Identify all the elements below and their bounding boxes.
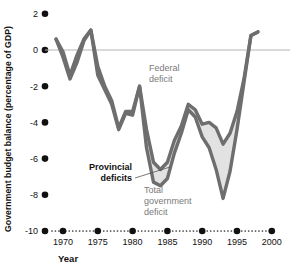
- y-tick-label: -4: [30, 118, 38, 128]
- x-axis-minor-dot: [55, 230, 57, 232]
- x-axis-minor-dot: [231, 230, 233, 232]
- x-axis-minor-dot: [148, 230, 150, 232]
- x-axis-minor-dot: [89, 230, 91, 232]
- x-axis-minor-dot: [186, 230, 188, 232]
- x-axis-minor-dot: [75, 230, 77, 232]
- provincial-deficits-label-line2: deficits: [100, 173, 132, 183]
- y-tick-dot: [42, 155, 49, 162]
- x-axis-minor-dot: [141, 230, 143, 232]
- x-axis-minor-dot: [220, 230, 222, 232]
- y-tick-label: -2: [30, 82, 38, 92]
- x-axis-minor-dot: [155, 230, 157, 232]
- x-axis-minor-dot: [224, 230, 226, 232]
- x-tick-dot: [129, 228, 136, 235]
- x-axis-minor-dot: [241, 230, 243, 232]
- y-axis-ticks: 20-2-4-6-8-10: [25, 9, 48, 236]
- x-axis-minor-dot: [106, 230, 108, 232]
- x-tick-dot: [60, 228, 67, 235]
- x-axis-title: Year: [58, 253, 78, 264]
- x-axis-minor-dot: [86, 230, 88, 232]
- provincial-deficits-label-line1: Provincial: [89, 162, 132, 172]
- x-axis-minor-dot: [196, 230, 198, 232]
- x-tick-label: 2000: [262, 237, 282, 247]
- x-axis-minor-dot: [265, 230, 267, 232]
- provincial-deficits-band: [56, 30, 258, 198]
- annotation-total-government-deficit: Total government deficit: [144, 185, 192, 217]
- x-axis-minor-dot: [79, 230, 81, 232]
- y-tick-dot: [42, 192, 49, 199]
- y-tick-dot: [42, 83, 49, 90]
- x-axis-minor-dot: [258, 230, 260, 232]
- federal-deficit-label-line1: Federal: [149, 63, 180, 73]
- y-tick-label: -10: [25, 226, 38, 236]
- x-tick-label: 1985: [157, 237, 177, 247]
- x-axis-minor-dot: [175, 230, 177, 232]
- x-axis-minor-dot: [262, 230, 264, 232]
- x-tick-label: 1970: [53, 237, 73, 247]
- x-axis-minor-dot: [144, 230, 146, 232]
- y-tick-dot: [42, 119, 49, 126]
- y-tick-dot: [42, 228, 49, 235]
- total-government-deficit-label-line2: government: [144, 196, 192, 206]
- x-axis-minor-dot: [210, 230, 212, 232]
- x-axis-minor-dot: [182, 230, 184, 232]
- x-axis-minor-dot: [72, 230, 74, 232]
- x-axis-minor-dot: [251, 230, 253, 232]
- y-axis-title: Government budget balance (percentage of…: [3, 26, 13, 232]
- x-axis-minor-dot: [113, 230, 115, 232]
- total-government-deficit-label-line1: Total: [144, 185, 163, 195]
- x-axis-minor-dot: [193, 230, 195, 232]
- x-tick-label: 1995: [227, 237, 247, 247]
- x-tick-label: 1980: [123, 237, 143, 247]
- x-tick-label: 1975: [88, 237, 108, 247]
- x-tick-dot: [95, 228, 102, 235]
- x-axis-minor-dot: [213, 230, 215, 232]
- x-axis-ticks: 1970197519801985199019952000: [53, 237, 282, 247]
- x-tick-label: 1990: [192, 237, 212, 247]
- x-tick-dot: [199, 228, 206, 235]
- y-tick-label: 0: [33, 45, 38, 55]
- x-axis-minor-dot: [93, 230, 95, 232]
- x-axis-minor-dot: [120, 230, 122, 232]
- x-axis-minor-dot: [103, 230, 105, 232]
- x-axis-minor-dot: [117, 230, 119, 232]
- federal-deficit-label-line2: deficit: [149, 74, 173, 84]
- x-tick-dot: [164, 228, 171, 235]
- x-axis-minor-dot: [58, 230, 60, 232]
- x-axis-minor-dot: [110, 230, 112, 232]
- x-axis-minor-dot: [217, 230, 219, 232]
- x-axis-minor-dot: [124, 230, 126, 232]
- x-axis-minor-dot: [172, 230, 174, 232]
- x-axis-minor-dot: [137, 230, 139, 232]
- x-axis-minor-dot: [127, 230, 129, 232]
- annotation-federal-deficit: Federal deficit: [149, 63, 180, 84]
- y-tick-label: 2: [33, 9, 38, 19]
- x-axis-minor-dot: [255, 230, 257, 232]
- x-axis-minor-dot: [68, 230, 70, 232]
- y-tick-label: -6: [30, 154, 38, 164]
- x-axis-dotted-line: [51, 228, 275, 235]
- x-axis-minor-dot: [151, 230, 153, 232]
- budget-balance-line-chart: Government budget balance (percentage of…: [0, 0, 302, 271]
- x-axis-minor-dot: [158, 230, 160, 232]
- x-axis-minor-dot: [244, 230, 246, 232]
- y-tick-label: -8: [30, 190, 38, 200]
- x-tick-dot: [269, 228, 276, 235]
- x-axis-minor-dot: [189, 230, 191, 232]
- x-axis-minor-dot: [248, 230, 250, 232]
- chart-container: Government budget balance (percentage of…: [0, 0, 302, 271]
- x-tick-dot: [234, 228, 241, 235]
- x-axis-minor-dot: [227, 230, 229, 232]
- x-axis-minor-dot: [82, 230, 84, 232]
- x-axis-minor-dot: [51, 230, 53, 232]
- x-axis-minor-dot: [206, 230, 208, 232]
- y-tick-dot: [42, 11, 49, 18]
- total-government-deficit-label-line3: deficit: [144, 207, 168, 217]
- x-axis-minor-dot: [179, 230, 181, 232]
- x-axis-minor-dot: [162, 230, 164, 232]
